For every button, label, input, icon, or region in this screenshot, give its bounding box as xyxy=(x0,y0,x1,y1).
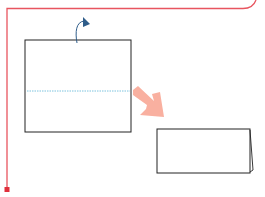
frame-end-marker xyxy=(5,187,10,192)
arrow-head xyxy=(83,17,90,27)
diagram-canvas xyxy=(0,0,265,197)
folded-rectangle xyxy=(157,129,250,173)
step-arrow-icon xyxy=(133,86,164,117)
square-paper xyxy=(25,40,131,132)
